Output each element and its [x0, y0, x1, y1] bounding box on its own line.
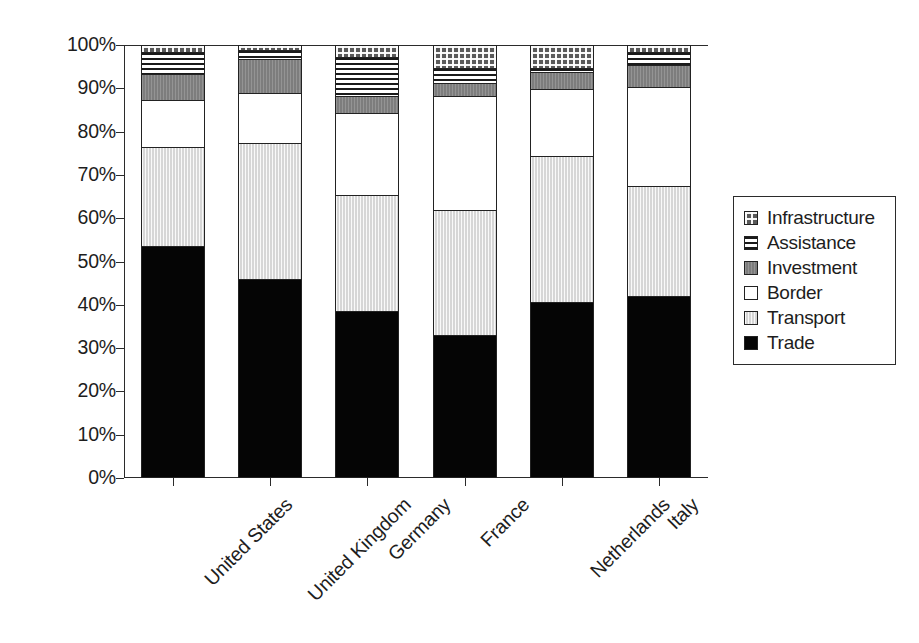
- legend-item[interactable]: Assistance: [744, 230, 885, 255]
- chart-legend: InfrastructureAssistanceInvestmentBorder…: [733, 196, 896, 365]
- legend-item[interactable]: Investment: [744, 255, 885, 280]
- legend-item[interactable]: Border: [744, 280, 885, 305]
- legend-item-label: Border: [767, 283, 822, 302]
- light-gray-swatch: [744, 311, 758, 325]
- legend-item-label: Trade: [767, 333, 814, 352]
- x-axis-category-label: Netherlands: [586, 494, 673, 581]
- legend-item[interactable]: Trade: [744, 330, 885, 355]
- y-axis-tick-mark: [116, 262, 124, 263]
- y-axis-tick-mark: [116, 435, 124, 436]
- legend-item[interactable]: Transport: [744, 305, 885, 330]
- x-axis-tick-mark: [270, 478, 271, 486]
- legend-item[interactable]: Infrastructure: [744, 205, 885, 230]
- stacked-bar-chart: 100%90%80%70%60%50%40%30%20%10%0% United…: [0, 0, 919, 643]
- x-axis-tick-mark: [659, 478, 660, 486]
- horizontal-lines-swatch: [744, 236, 758, 250]
- y-axis-tick-mark: [116, 478, 124, 479]
- y-axis-tick-mark: [116, 132, 124, 133]
- x-axis-category-label: Italy: [664, 494, 703, 533]
- x-axis-tick-mark: [562, 478, 563, 486]
- y-axis-tick-mark: [116, 305, 124, 306]
- dark-gray-swatch: [744, 261, 758, 275]
- white-swatch: [744, 286, 758, 300]
- x-axis-category-label: United States: [200, 494, 295, 589]
- y-axis-tick-mark: [116, 88, 124, 89]
- y-axis-tick-mark: [116, 218, 124, 219]
- legend-item-label: Investment: [767, 258, 857, 277]
- legend-item-label: Assistance: [767, 233, 856, 252]
- checkerboard-swatch: [744, 211, 758, 225]
- legend-item-label: Infrastructure: [767, 208, 875, 227]
- x-axis-category-label: France: [476, 494, 532, 550]
- x-axis-tick-mark: [367, 478, 368, 486]
- x-axis-tick-mark: [173, 478, 174, 486]
- legend-item-label: Transport: [767, 308, 845, 327]
- y-axis-tick-mark: [116, 391, 124, 392]
- y-axis-tick-mark: [116, 348, 124, 349]
- x-axis-tick-mark: [465, 478, 466, 486]
- y-axis-tick-mark: [116, 45, 124, 46]
- black-swatch: [744, 336, 758, 350]
- y-axis-tick-mark: [116, 175, 124, 176]
